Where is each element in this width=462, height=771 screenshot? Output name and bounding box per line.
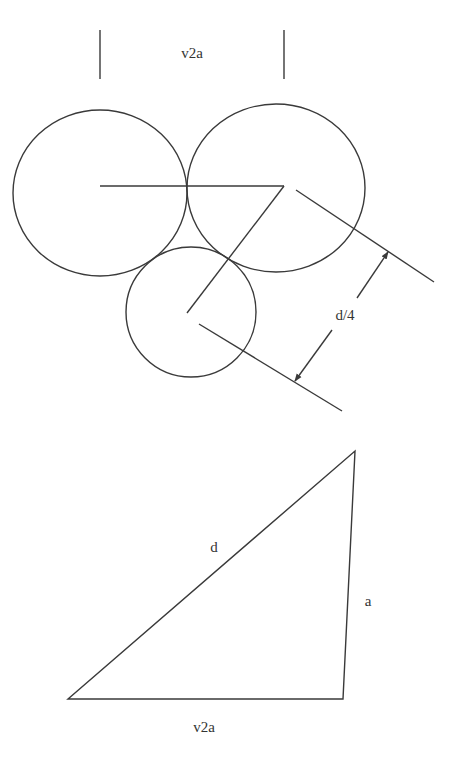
hypotenuse-label: d [210, 539, 218, 555]
packed-circles-figure: v2a d/4 [13, 30, 434, 411]
right-triangle-figure: d a v2a [68, 451, 372, 735]
right-circle [187, 104, 365, 272]
vertical-side-label: a [365, 593, 372, 609]
center-connector-diagonal [187, 186, 284, 313]
diagram-canvas: v2a d/4 d a v2a [0, 0, 462, 771]
left-circle [13, 110, 187, 276]
side-dimension-label: d/4 [335, 307, 355, 323]
lower-dimension-extension [199, 324, 342, 411]
base-label: v2a [193, 719, 215, 735]
upper-dimension-extension [296, 190, 434, 282]
top-dimension-label: v2a [181, 45, 203, 61]
triangle [68, 451, 355, 699]
dimension-arrow-down [295, 330, 332, 381]
bottom-circle [126, 247, 256, 377]
dimension-arrow-up [357, 252, 388, 298]
